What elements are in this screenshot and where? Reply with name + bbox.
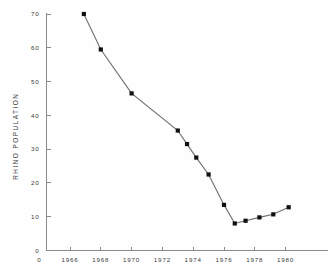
x-tick-label-1980: 1980 [277,256,294,263]
x-tick-label-1976: 1976 [215,256,232,263]
data-series [82,12,291,226]
x-axis-ticks [70,247,286,251]
x-axis-tick-labels: 19661968197019721974197619781980 [61,256,294,263]
rhino-population-line-chart: 010203040506070 196619681970197219741976… [0,0,331,278]
x-tick-label-1970: 1970 [123,256,140,263]
x-tick-label-1972: 1972 [154,256,171,263]
y-tick-label-50: 50 [31,78,40,85]
y-axis-title-text: RHINO POPULATION [12,93,19,180]
data-point [82,12,86,16]
chart-container: 010203040506070 196619681970197219741976… [0,0,331,278]
x-tick-label-1974: 1974 [185,256,202,263]
data-point [130,91,134,95]
y-tick-label-10: 10 [31,213,40,220]
x-axis-origin-label: 0 [37,256,41,263]
y-tick-label-0: 0 [35,247,39,254]
data-point [271,212,275,216]
data-point [99,47,103,51]
data-point [194,155,198,159]
x-tick-label-1978: 1978 [246,256,263,263]
x-tick-label-1968: 1968 [92,256,109,263]
y-tick-label-30: 30 [31,145,40,152]
x-tick-label-1966: 1966 [61,256,78,263]
data-point [207,172,211,176]
y-axis-tick-labels: 010203040506070 [31,10,40,254]
data-point [257,215,261,219]
y-axis-ticks [47,14,51,251]
data-point [233,221,237,225]
y-axis-title: RHINO POPULATION [12,93,19,180]
data-point [222,203,226,207]
y-tick-label-70: 70 [31,10,40,17]
data-point [176,128,180,132]
data-point [185,142,189,146]
series-line-0 [84,14,289,223]
data-point [287,205,291,209]
data-point [243,219,247,223]
y-tick-label-60: 60 [31,44,40,51]
y-tick-label-40: 40 [31,112,40,119]
origin-label: 0 [37,256,41,263]
y-tick-label-20: 20 [31,179,40,186]
